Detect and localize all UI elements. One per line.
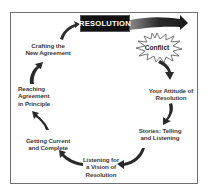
step-listening-line3: Resolution bbox=[82, 171, 120, 178]
step-listening-line1: Listening for bbox=[82, 156, 120, 163]
resolution-exit-arrow bbox=[130, 15, 188, 30]
step-getting-current-line1: Getting Current bbox=[24, 137, 72, 144]
step-reaching-line3: in Principle bbox=[18, 100, 58, 107]
step-getting-current-line2: and Complete bbox=[24, 144, 72, 151]
step-crafting: Crafting the New Agreement bbox=[24, 42, 72, 57]
step-attitude-line2: Resolution bbox=[143, 94, 199, 101]
conflict-label: Conflict bbox=[140, 44, 174, 51]
step-crafting-line1: Crafting the bbox=[24, 42, 72, 49]
crafting-to-resolution-arrow bbox=[60, 21, 80, 40]
listening-to-getting-current-arrow bbox=[59, 150, 83, 166]
step-reaching-line1: Reaching bbox=[18, 85, 58, 92]
resolution-title-box: RESOLUTION bbox=[80, 15, 130, 32]
step-getting-current: Getting Current and Complete bbox=[24, 137, 72, 152]
step-listening-line2: a Vision of bbox=[82, 163, 120, 170]
stories-to-listening-arrow bbox=[117, 148, 145, 169]
step-reaching: Reaching Agreement in Principle bbox=[18, 85, 58, 107]
step-listening: Listening for a Vision of Resolution bbox=[82, 156, 120, 178]
getting-current-to-reaching-arrow bbox=[32, 111, 49, 130]
step-stories: Stories: Telling and Listening bbox=[134, 127, 186, 142]
step-stories-line2: and Listening bbox=[134, 134, 186, 141]
conflict-to-attitude-arrow bbox=[158, 60, 174, 80]
step-stories-line1: Stories: Telling bbox=[134, 127, 186, 134]
step-attitude-line1: Your Attitude of bbox=[143, 87, 199, 94]
attitude-to-stories-arrow bbox=[163, 103, 173, 125]
reaching-to-crafting-arrow bbox=[30, 62, 43, 84]
step-reaching-line2: Agreement bbox=[18, 92, 58, 99]
resolution-title: RESOLUTION bbox=[79, 19, 131, 28]
step-attitude: Your Attitude of Resolution bbox=[143, 87, 199, 102]
step-crafting-line2: New Agreement bbox=[24, 49, 72, 56]
